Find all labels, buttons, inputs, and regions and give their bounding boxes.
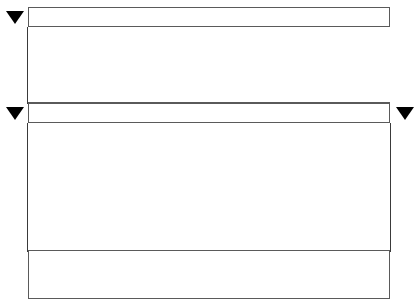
triangle-down-icon-mid-left (6, 107, 24, 120)
bottom-plot-area (28, 123, 390, 251)
figure-root (0, 0, 418, 307)
x-axis-category-labels (28, 254, 390, 299)
top-baseline (28, 102, 390, 103)
bottom-y-axis-left (27, 123, 28, 252)
triangle-down-icon-top-left (6, 11, 24, 24)
bottom-baseline (28, 250, 390, 251)
top-panel-header (28, 7, 390, 27)
bottom-panel-header (28, 103, 390, 123)
top-plot-area (28, 27, 390, 103)
triangle-down-icon-mid-right (396, 107, 414, 120)
bottom-y-axis-right (390, 123, 391, 252)
top-y-axis (27, 27, 28, 104)
